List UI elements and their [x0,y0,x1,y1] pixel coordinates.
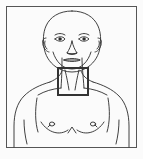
anatomy-illustration [0,0,143,159]
figure-background [0,0,143,159]
pupil-right [83,38,85,40]
anatomy-figure: Anterior view of male head, neck and upp… [0,0,143,159]
pupil-left [59,38,61,40]
